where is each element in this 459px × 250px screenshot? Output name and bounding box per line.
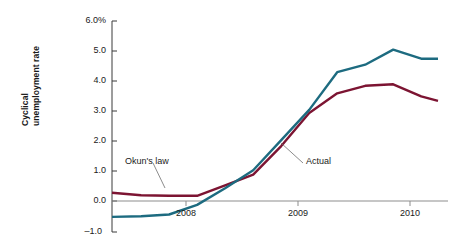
series-label-actual: Actual [306, 156, 331, 166]
y-tick-label-0: 0.0 [62, 195, 106, 205]
y-tick-label-4: 4.0 [62, 75, 106, 85]
y-axis-title-line-2: unemployment rate [31, 46, 42, 126]
x-tick-label-2009: 2009 [275, 208, 321, 218]
series-line-actual [112, 50, 438, 217]
x-axis-ticks [186, 201, 410, 206]
y-tick-label-3: 3.0 [62, 105, 106, 115]
series-label-okuns-law: Okun's law [125, 156, 169, 166]
y-tick-label-6: 6.0% [62, 15, 106, 25]
y-tick-label-5: 5.0 [62, 45, 106, 55]
y-tick-label-2: 2.0 [62, 135, 106, 145]
x-tick-label-2010: 2010 [387, 208, 433, 218]
y-tick-label-1: 1.0 [62, 165, 106, 175]
chart-figure: Cyclical unemployment rate 6.0% 5.0 4.0 … [0, 0, 459, 250]
y-axis-title: Cyclical unemployment rate [6, 8, 62, 128]
x-tick-label-2008: 2008 [163, 208, 209, 218]
leader-line-actual [281, 143, 303, 163]
leader-line-okuns-law [153, 163, 165, 188]
y-axis-ticks [112, 21, 117, 232]
y-axis-title-line-1: Cyclical [20, 46, 31, 126]
y-tick-label-neg1: –1.0 [58, 226, 102, 236]
